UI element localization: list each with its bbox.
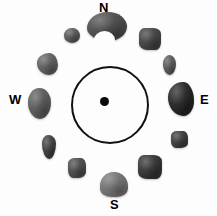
stone-body [42,135,56,159]
stone-west [28,88,51,119]
stone-west-southwest [42,135,56,159]
stone-body [64,28,80,43]
center-dot [100,97,109,106]
stone-body [37,53,58,75]
stone-body [163,55,176,75]
stone-southeast [138,155,162,179]
stone-circle-figure: NESW [0,0,217,216]
stone-north [87,12,127,41]
stone-notch [94,31,115,49]
stone-body [138,155,162,179]
cardinal-north: N [99,1,108,14]
stone-body [139,28,161,50]
stone-south [100,172,128,197]
stone-southwest [68,158,86,178]
stone-north-northwest [64,28,80,43]
stone-body [68,158,86,178]
stone-east-southeast [171,131,188,148]
stone-body [28,88,51,119]
cardinal-west: W [9,93,21,106]
stone-body [100,172,128,197]
cardinal-south: S [110,198,119,211]
stone-northwest [37,53,58,75]
central-circle [71,66,149,144]
cardinal-east: E [200,93,209,106]
stone-east [168,82,194,116]
stone-northeast [139,28,161,50]
stone-east-northeast [163,55,176,75]
stone-body [168,82,194,116]
stone-body [171,131,188,148]
